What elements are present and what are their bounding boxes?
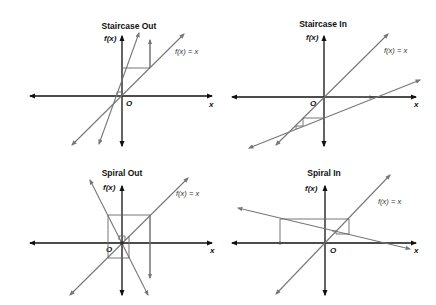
panel-title: Staircase Out [102,21,157,31]
y-axis-label: f(x) [104,34,117,43]
panel-title: Spiral Out [102,168,143,178]
function-line [99,33,139,144]
x-axis-label: x [413,100,419,109]
x-axis-label: x [413,246,419,255]
y-axis-label: f(x) [305,184,318,193]
identity-line-label: f(x) = x [175,47,198,56]
panel-title: Staircase In [299,19,347,29]
origin-label: O [126,99,133,108]
identity-line-label: f(x) = x [378,197,401,206]
panel-spiral-in: Spiral In f(x) x O f(x) = x [232,168,419,295]
origin-label: O [330,246,337,255]
y-axis-label: f(x) [306,33,319,42]
cobweb-path [296,97,370,129]
origin-label: O [310,99,317,108]
identity-line [72,34,184,145]
panel-spiral-out: Spiral Out f(x) x O f(x) = x [30,168,215,295]
cobweb-path [280,219,349,243]
identity-line [276,34,388,145]
x-axis-label: x [209,246,215,255]
cobweb-path [108,215,150,278]
identity-line [276,175,390,294]
cobweb-diagrams: Staircase Out f(x) x O f(x) = x Staircas… [0,0,436,305]
function-line [249,80,420,148]
panel-title: Spiral In [307,168,341,178]
panel-staircase-out: Staircase Out f(x) x O f(x) = x [30,21,214,146]
identity-line-label: f(x) = x [176,189,199,198]
identity-line-label: f(x) = x [384,46,407,55]
panel-staircase-in: Staircase In f(x) x O f(x) = x [232,19,420,148]
x-axis-label: x [208,100,214,109]
y-axis-label: f(x) [103,183,116,192]
